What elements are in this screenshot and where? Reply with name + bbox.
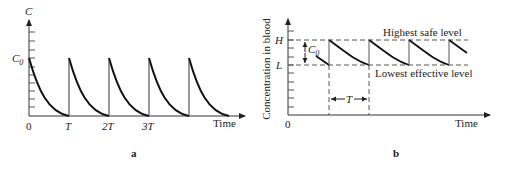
x-tick-T: T — [65, 120, 72, 132]
y-axis-label: C — [25, 5, 33, 17]
y-ticks — [288, 31, 294, 107]
panel-label-b: b — [393, 147, 399, 159]
period-label: T — [346, 93, 353, 105]
l-label: L — [275, 59, 282, 71]
panel-label-a: a — [131, 147, 137, 159]
figure: C C0 0 T 2T 3T Time a — [0, 0, 509, 169]
c0-label: C0 — [12, 52, 23, 67]
concentration-curve — [29, 58, 229, 116]
x-tick-3T: 3T — [141, 120, 155, 132]
c0-label: C0 — [308, 43, 319, 58]
x-tick-0: 0 — [26, 120, 32, 132]
concentration-curve — [316, 40, 467, 65]
y-axis-label: Concentration in blood — [260, 18, 272, 120]
lowest-effective-level-label: Lowest effective level — [375, 67, 473, 79]
highest-safe-level-label: Highest safe level — [383, 26, 462, 38]
panel-b: C0 T H L 0 Concentration in blood Highes… — [260, 18, 490, 159]
panel-a: C C0 0 T 2T 3T Time a — [12, 5, 245, 159]
x-axis-label: Time — [455, 117, 478, 129]
x-axis-label: Time — [213, 117, 236, 129]
x-tick-2T: 2T — [102, 120, 115, 132]
h-label: H — [274, 34, 284, 46]
origin-label: 0 — [285, 118, 291, 130]
